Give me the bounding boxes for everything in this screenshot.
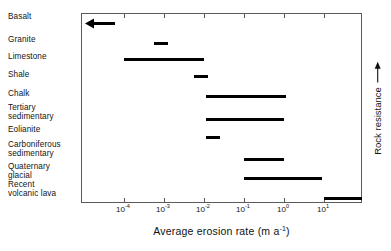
x-tick-top-0 [124,14,125,18]
x-tick-top-5 [324,14,325,18]
bar-eolianite [206,136,220,139]
category-label-chalk: Chalk [8,90,82,99]
category-label-eolianite: Eolianite [8,126,82,135]
x-axis-title-text: Average erosion rate (m a [153,225,279,237]
category-label-quaternary-glacial: Quaternary glacial [8,163,82,180]
x-tick-label-4: 100 [277,205,289,214]
x-tick-top-3 [244,14,245,18]
rock-resistance-axis: Rock resistance [362,13,391,203]
rock-resistance-label: Rock resistance [371,87,382,155]
bar-tertiary-sedimentary [206,118,284,121]
category-label-limestone: Limestone [8,53,82,62]
x-tick-label-2: 10-2 [196,205,210,214]
x-axis-title: Average erosion rate (m a-1) [81,225,362,237]
category-label-carboniferous-sedimentary: Carboniferous sedimentary [8,141,82,158]
x-tick-label-5: 101 [317,205,329,214]
bar-granite [154,42,168,45]
x-tick-label-3: 10-1 [236,205,250,214]
category-label-basalt: Basalt [8,13,82,22]
x-tick-bot-3 [244,198,245,202]
x-axis-title-tail: ) [286,225,290,237]
erosion-rate-chart: BasaltGraniteLimestoneShaleChalkTertiary… [0,0,391,251]
x-tick-bot-0 [124,198,125,202]
x-tick-label-0: 10-4 [116,205,130,214]
category-label-shale: Shale [8,71,82,80]
rock-resistance-arrow-icon [373,61,381,83]
bar-limestone [124,58,204,61]
x-tick-label-1: 10-3 [156,205,170,214]
basalt-left-arrow-icon [84,17,116,30]
category-label-tertiary-sedimentary: Tertiary sedimentary [8,104,82,121]
x-tick-bot-4 [284,198,285,202]
category-label-column: BasaltGraniteLimestoneShaleChalkTertiary… [0,0,80,210]
x-tick-bot-2 [204,198,205,202]
category-label-recent-volcanic-lava: Recent volcanic lava [8,181,82,198]
category-label-granite: Granite [8,36,82,45]
bar-quaternary-glacial [244,177,322,180]
x-tick-top-1 [164,14,165,18]
x-tick-bot-1 [164,198,165,202]
bar-recent-volcanic-lava [324,197,362,200]
bar-shale [194,75,208,78]
plot-area [81,13,362,203]
bar-chalk [206,95,286,98]
x-tick-top-4 [284,14,285,18]
bar-carboniferous-sedimentary [244,158,284,161]
x-tick-top-2 [204,14,205,18]
